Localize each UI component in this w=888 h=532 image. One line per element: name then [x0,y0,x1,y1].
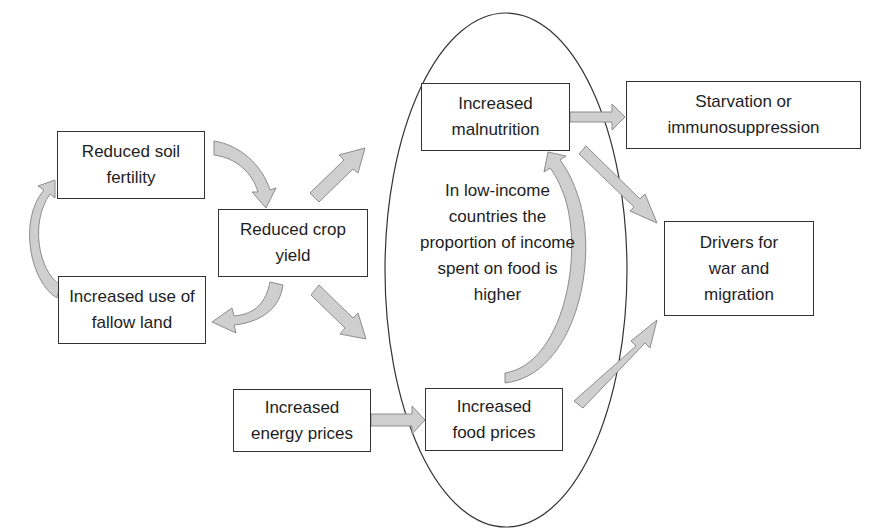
node-drivers-war-migration: Drivers for war and migration [664,221,814,316]
node-label: Increased food prices [444,394,544,446]
ellipse-note-text: In low-income countries the proportion o… [420,181,575,304]
arrow-fallow-to-soil [30,180,60,298]
node-increased-food-prices: Increased food prices [425,388,563,451]
node-increased-energy-prices: Increased energy prices [233,389,371,452]
node-reduced-crop-yield: Reduced crop yield [218,209,368,277]
arrow-energy-to-foodprices [371,406,425,434]
arrow-malnutrition-to-drivers [579,146,657,223]
arrow-soil-to-cropyield [214,141,276,208]
node-label: Drivers for war and migration [689,230,789,308]
arrow-cropyield-to-foodprices [311,285,366,339]
node-increased-malnutrition: Increased malnutrition [421,83,570,151]
node-label: Reduced crop yield [223,217,363,269]
node-label: Increased use of fallow land [63,284,201,336]
node-label: Reduced soil fertility [62,139,200,191]
arrow-cropyield-to-fallow [212,282,283,333]
node-label: Starvation or immunosuppression [649,89,839,141]
node-increased-fallow-land: Increased use of fallow land [58,276,206,344]
arrow-foodprices-to-drivers [574,320,657,408]
node-reduced-soil-fertility: Reduced soil fertility [57,131,205,199]
node-starvation-immunosuppression: Starvation or immunosuppression [626,81,861,149]
arrow-malnutrition-to-starvation [570,104,625,130]
node-label: Increased energy prices [238,395,366,447]
node-label: Increased malnutrition [441,91,551,143]
ellipse-note: In low-income countries the proportion o… [420,178,575,308]
arrow-cropyield-to-malnutrition [310,148,365,202]
